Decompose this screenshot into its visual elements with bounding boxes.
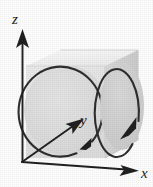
x-axis-line <box>22 162 126 170</box>
z-axis-label: z <box>11 11 18 27</box>
vector-field-figure: z y x <box>0 0 153 187</box>
figure-canvas: z y x <box>0 0 153 187</box>
x-axis-label: x <box>140 165 148 181</box>
x-axis-arrowhead <box>120 165 140 176</box>
y-axis-label: y <box>78 112 87 128</box>
